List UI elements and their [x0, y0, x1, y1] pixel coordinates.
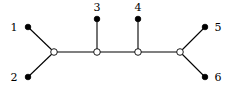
leaf-node-5	[202, 24, 208, 30]
edge-6-d	[180, 52, 205, 77]
internal-node-d	[177, 49, 184, 56]
internal-node-b	[94, 49, 101, 56]
leaf-node-1	[25, 24, 31, 30]
leaf-label-6: 6	[215, 71, 222, 84]
edge-2-a	[28, 52, 54, 77]
edges-layer	[28, 19, 205, 77]
leaf-node-3	[94, 16, 100, 22]
nodes-layer	[25, 16, 208, 80]
leaf-node-4	[135, 16, 141, 22]
edge-5-d	[180, 27, 205, 52]
leaf-label-3: 3	[94, 1, 101, 14]
internal-node-c	[135, 49, 142, 56]
tree-diagram: 123456	[0, 0, 232, 92]
internal-node-a	[51, 49, 58, 56]
leaf-node-2	[25, 74, 31, 80]
leaf-node-6	[202, 74, 208, 80]
edge-1-a	[28, 27, 54, 52]
leaf-label-2: 2	[11, 71, 18, 84]
leaf-label-4: 4	[135, 1, 142, 14]
leaf-label-5: 5	[215, 21, 222, 34]
leaf-label-1: 1	[11, 21, 18, 34]
